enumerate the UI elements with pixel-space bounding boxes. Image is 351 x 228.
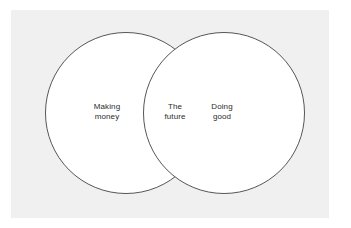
venn-label-right-line2: good [192, 112, 252, 122]
venn-label-left-line1: Making [77, 102, 137, 112]
venn-label-right: Doing good [192, 102, 252, 122]
venn-diagram-figure: Making money The future Doing good [0, 0, 351, 228]
venn-label-right-line1: Doing [192, 102, 252, 112]
venn-label-left: Making money [77, 102, 137, 122]
venn-label-left-line2: money [77, 112, 137, 122]
